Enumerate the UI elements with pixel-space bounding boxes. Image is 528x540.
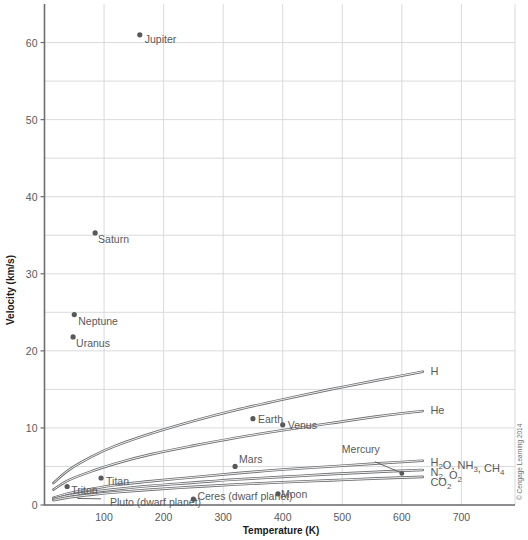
data-point-neptune [72, 312, 77, 317]
curve-label-h2: H [430, 365, 438, 377]
point-label-saturn: Saturn [98, 233, 129, 245]
y-tick-label: 50 [26, 114, 38, 126]
point-label-ceres: Ceres (dwarf planet) [197, 490, 292, 502]
y-axis-title: Velocity (km/s) [5, 255, 16, 325]
data-point-jupiter [137, 32, 142, 37]
point-label-uranus: Uranus [76, 337, 110, 349]
data-point-uranus [70, 334, 75, 339]
scatter-points-layer [65, 32, 405, 502]
x-tick-label: 400 [274, 511, 292, 523]
y-tick-label: 60 [26, 37, 38, 49]
velocity-temperature-chart: HHeH2O, NH3, CH4N2, O2CO2JupiterSaturnNe… [0, 0, 528, 540]
point-label-earth: Earth [258, 413, 283, 425]
y-tick-label: 10 [26, 422, 38, 434]
y-tick-label: 20 [26, 345, 38, 357]
data-point-saturn [93, 230, 98, 235]
point-label-triton: Triton [71, 484, 98, 496]
y-tick-label: 30 [26, 268, 38, 280]
x-tick-label: 300 [214, 511, 232, 523]
x-tick-label: 200 [155, 511, 173, 523]
chart-svg: HHeH2O, NH3, CH4N2, O2CO2JupiterSaturnNe… [0, 0, 528, 540]
point-label-neptune: Neptune [78, 315, 118, 327]
point-label-jupiter: Jupiter [145, 33, 177, 45]
point-label-venus: Venus [288, 419, 317, 431]
curve-label-he: He [430, 404, 444, 416]
x-tick-label: 100 [95, 511, 113, 523]
x-tick-label: 600 [393, 511, 411, 523]
x-axis-title: Temperature (K) [243, 525, 320, 536]
copyright-credit: © Cengage Learning 2014 [516, 423, 524, 500]
x-tick-label: 500 [334, 511, 352, 523]
y-tick-label: 0 [32, 499, 38, 511]
point-label-mercury: Mercury [342, 443, 381, 455]
data-point-mars [232, 464, 237, 469]
x-tick-label: 700 [453, 511, 471, 523]
data-point-triton [65, 484, 70, 489]
point-label-titan: Titan [106, 475, 129, 487]
labels-layer: HHeH2O, NH3, CH4N2, O2CO2JupiterSaturnNe… [71, 33, 505, 508]
data-point-titan [98, 475, 103, 480]
annotation-label-pluto: Pluto (dwarf planet) [110, 496, 201, 508]
tick-labels-layer: 0102030405060100200300400500600700 [26, 37, 470, 523]
data-point-earth [250, 416, 255, 421]
point-label-mars: Mars [239, 453, 262, 465]
data-point-mercury [399, 471, 404, 476]
y-tick-label: 40 [26, 191, 38, 203]
